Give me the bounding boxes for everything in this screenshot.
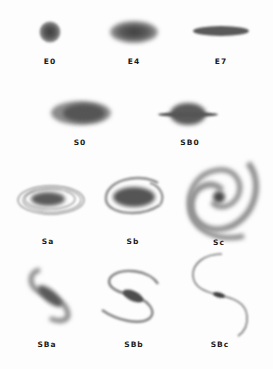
label-sb: Sb bbox=[127, 238, 140, 246]
label-e7: E7 bbox=[215, 58, 227, 66]
label-sb0: SB0 bbox=[180, 139, 199, 147]
galaxy-sb bbox=[106, 178, 162, 213]
galaxy-sb0 bbox=[158, 103, 218, 125]
galaxy-sc bbox=[189, 163, 256, 238]
label-sba: SBa bbox=[37, 341, 56, 349]
galaxy-sba bbox=[31, 270, 68, 321]
galaxy-illustrations bbox=[0, 0, 273, 369]
label-e4: E4 bbox=[128, 58, 140, 66]
label-e0: E0 bbox=[44, 58, 56, 66]
label-sbc: SBc bbox=[211, 341, 230, 349]
label-sa: Sa bbox=[42, 238, 54, 246]
galaxy-e7 bbox=[193, 26, 249, 36]
label-s0: S0 bbox=[74, 139, 87, 147]
galaxy-s0 bbox=[51, 101, 111, 125]
galaxy-sbc bbox=[193, 254, 247, 336]
galaxy-sa bbox=[18, 186, 84, 214]
label-sc: Sc bbox=[213, 239, 225, 247]
galaxy-classification-diagram: E0 E4 E7 S0 SB0 Sa Sb Sc SBa SBb SBc bbox=[0, 0, 273, 369]
label-sbb: SBb bbox=[124, 341, 144, 349]
galaxy-e0 bbox=[40, 22, 61, 43]
galaxy-e4 bbox=[110, 21, 158, 43]
galaxy-sbb bbox=[102, 271, 158, 322]
